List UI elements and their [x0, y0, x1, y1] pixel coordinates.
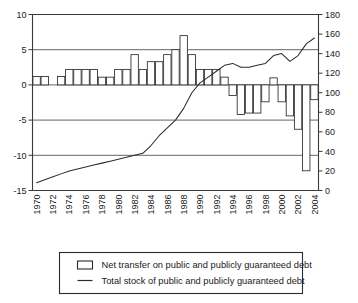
left-tick-label--15: -15: [13, 186, 26, 196]
bar-2003: [303, 85, 310, 171]
left-tick-label--5: -5: [18, 115, 26, 125]
bar-1987: [172, 50, 179, 85]
year-label-1990: 1990: [195, 195, 205, 215]
bar-2001: [286, 85, 293, 116]
left-axis-ticks: 1050-5-10-15: [13, 10, 32, 196]
bar-1986: [164, 55, 171, 85]
legend-swatch-bar: [78, 261, 93, 269]
legend-label-net-transfer: Net transfer on public and publicly guar…: [102, 260, 313, 270]
bar-1982: [131, 55, 138, 85]
right-tick-label-160: 160: [325, 29, 340, 39]
right-tick-label-120: 120: [325, 68, 340, 78]
grid-lines: [33, 15, 319, 191]
legend-box: [60, 253, 303, 294]
year-label-2004: 2004: [310, 195, 320, 215]
bar-1997: [254, 85, 261, 113]
bar-1981: [123, 69, 130, 84]
bar-1998: [262, 85, 269, 102]
bar-1988: [180, 36, 187, 85]
year-label-1996: 1996: [244, 195, 254, 215]
year-label-1980: 1980: [114, 195, 124, 215]
bar-1995: [237, 85, 244, 115]
right-tick-label-180: 180: [325, 10, 340, 20]
axes: [33, 15, 319, 191]
year-label-1998: 1998: [261, 195, 271, 215]
year-label-1982: 1982: [130, 195, 140, 215]
bar-1974: [66, 69, 73, 84]
bar-1989: [188, 55, 195, 85]
bar-1985: [155, 62, 162, 85]
bar-1977: [90, 69, 97, 84]
right-tick-label-80: 80: [325, 107, 335, 117]
bar-1971: [41, 76, 48, 84]
bar-1999: [270, 78, 277, 85]
year-label-2002: 2002: [293, 195, 303, 215]
bar-1978: [98, 77, 105, 85]
bar-1993: [221, 77, 228, 85]
bar-2000: [278, 85, 285, 102]
debt-chart: 1050-5-10-15 180160140120100806040200 19…: [0, 0, 358, 303]
bar-2004: [311, 85, 318, 100]
right-tick-label-40: 40: [325, 147, 335, 157]
right-tick-label-100: 100: [325, 88, 340, 98]
x-axis-year-labels: 1970197219741976197819801982198419861988…: [32, 195, 320, 215]
bar-2002: [294, 85, 301, 129]
chart-figure: 1050-5-10-15 180160140120100806040200 19…: [0, 0, 358, 303]
bar-1976: [82, 69, 89, 84]
year-label-1974: 1974: [64, 195, 74, 215]
right-tick-label-0: 0: [325, 186, 330, 196]
legend-label-total-stock: Total stock of public and publicly guara…: [102, 276, 306, 286]
chart-legend: Net transfer on public and publicly guar…: [60, 253, 313, 294]
bar-series-net-transfer: [33, 36, 318, 171]
year-label-1988: 1988: [179, 195, 189, 215]
year-label-1994: 1994: [228, 195, 238, 215]
year-label-1970: 1970: [32, 195, 42, 215]
right-axis-ticks: 180160140120100806040200: [319, 10, 341, 196]
year-label-1984: 1984: [146, 195, 156, 215]
right-tick-label-140: 140: [325, 49, 340, 59]
left-tick-label-10: 10: [16, 10, 26, 20]
year-label-2000: 2000: [277, 195, 287, 215]
bar-1973: [57, 76, 64, 84]
year-label-1978: 1978: [97, 195, 107, 215]
bar-1994: [229, 85, 236, 96]
right-tick-label-60: 60: [325, 127, 335, 137]
year-label-1986: 1986: [163, 195, 173, 215]
year-label-1972: 1972: [48, 195, 58, 215]
bar-1984: [147, 62, 154, 85]
bar-1970: [33, 76, 40, 84]
left-tick-label-0: 0: [21, 80, 26, 90]
bar-1980: [115, 69, 122, 84]
year-label-1976: 1976: [81, 195, 91, 215]
left-tick-label--10: -10: [13, 151, 26, 161]
bar-1996: [245, 85, 252, 113]
left-tick-label-5: 5: [21, 45, 26, 55]
year-label-1992: 1992: [212, 195, 222, 215]
bar-1975: [74, 69, 81, 84]
right-tick-label-20: 20: [325, 166, 335, 176]
bar-1979: [106, 77, 113, 85]
bar-1983: [139, 69, 146, 84]
